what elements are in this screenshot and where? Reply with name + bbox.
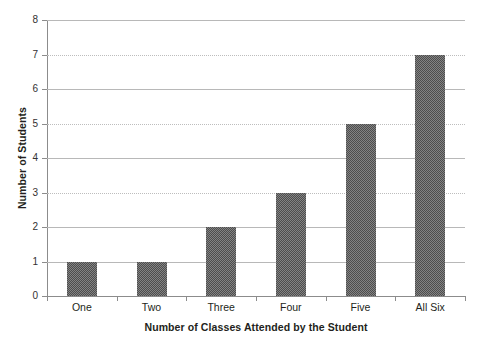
x-category-label: Three [186,300,256,314]
y-tick-label: 2 [18,222,38,232]
x-category-label: Four [256,300,326,314]
y-tick-label: 6 [18,84,38,94]
y-tick-label-text: 4 [18,153,38,163]
x-category-label: Five [326,300,396,314]
bar-chart: Number of Students 012345678 OneTwoThree… [0,0,480,348]
y-tick-label: 3 [18,188,38,198]
gridline [47,124,465,125]
plot-area [47,20,465,296]
bar [206,227,236,296]
y-tick-label: 0 [18,291,38,301]
y-tick-label-text: 7 [18,50,38,60]
y-tick-label-text: 0 [18,291,38,301]
x-category-label: Two [117,300,187,314]
bar [276,193,306,297]
x-category-label: All Six [395,300,465,314]
gridline [47,20,465,21]
gridline [47,55,465,56]
gridline [47,227,465,228]
bar [67,262,97,297]
gridline [47,89,465,90]
y-tick-label-text: 3 [18,188,38,198]
y-tick-label-text: 8 [18,15,38,25]
y-tick-label-text: 2 [18,222,38,232]
gridline [47,262,465,263]
y-tick-label-text: 6 [18,84,38,94]
bar [415,55,445,297]
y-tick-label: 8 [18,15,38,25]
y-tick-label: 4 [18,153,38,163]
y-tick-label-text: 1 [18,257,38,267]
bar [346,124,376,297]
bar [137,262,167,297]
x-category-label: One [47,300,117,314]
y-tick-label: 1 [18,257,38,267]
x-axis-title: Number of Classes Attended by the Studen… [47,320,465,334]
y-tick-label: 5 [18,119,38,129]
gridline [47,193,465,194]
gridline [47,158,465,159]
y-tick-label-text: 5 [18,119,38,129]
y-tick-label: 7 [18,50,38,60]
x-tick-mark [465,296,466,301]
